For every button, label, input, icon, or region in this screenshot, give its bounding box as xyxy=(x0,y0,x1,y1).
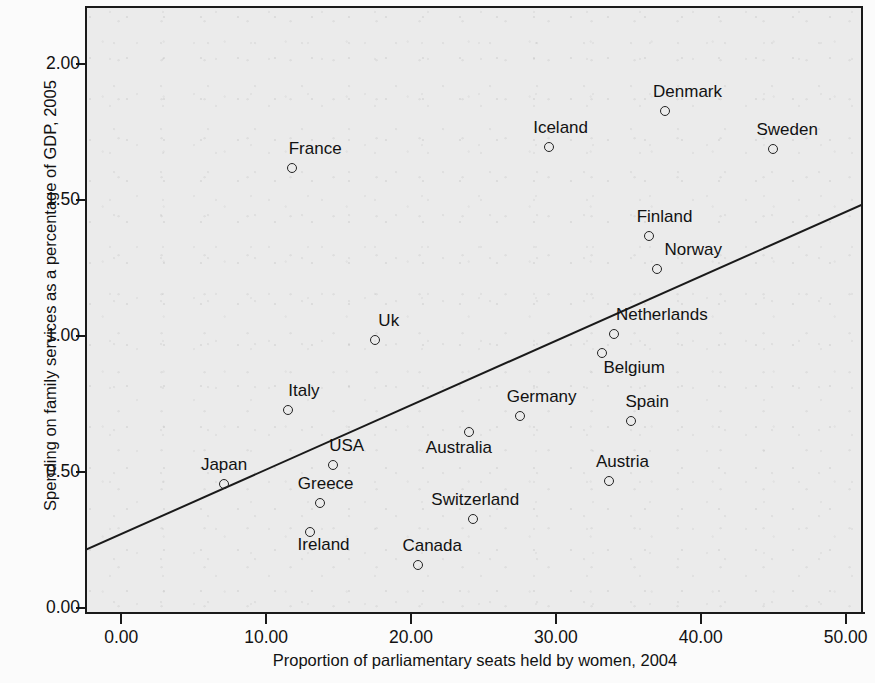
data-point[interactable] xyxy=(652,264,662,274)
data-point[interactable] xyxy=(315,498,325,508)
data-point[interactable] xyxy=(660,106,670,116)
x-tick-mark xyxy=(700,614,702,624)
x-tick-mark xyxy=(410,614,412,624)
data-point[interactable] xyxy=(283,405,293,415)
y-tick-label: 0.00 xyxy=(46,596,80,617)
data-point-label: Spain xyxy=(625,392,668,412)
data-point-label: Japan xyxy=(201,455,247,475)
data-point-label: Denmark xyxy=(653,82,722,102)
data-point-label: Greece xyxy=(298,474,354,494)
data-point[interactable] xyxy=(597,348,607,358)
data-point[interactable] xyxy=(413,560,423,570)
x-tick-label: 50.00 xyxy=(824,627,868,648)
data-point[interactable] xyxy=(768,144,778,154)
data-point[interactable] xyxy=(609,329,619,339)
data-point-label: Austria xyxy=(596,452,649,472)
data-point-label: Belgium xyxy=(603,358,664,378)
x-tick-label: 10.00 xyxy=(244,627,288,648)
data-point-label: Ireland xyxy=(298,535,350,555)
data-point-label: Switzerland xyxy=(431,490,519,510)
data-point-label: Uk xyxy=(378,311,399,331)
data-point[interactable] xyxy=(468,514,478,524)
data-point[interactable] xyxy=(626,416,636,426)
y-axis-title: Spending on family services as a percent… xyxy=(41,1,60,591)
data-point[interactable] xyxy=(219,479,229,489)
data-point-label: Italy xyxy=(288,381,319,401)
x-tick-label: 0.00 xyxy=(104,627,138,648)
data-point-label: Sweden xyxy=(756,120,817,140)
x-tick-label: 40.00 xyxy=(679,627,723,648)
data-point-label: Germany xyxy=(507,387,577,407)
x-axis-line xyxy=(85,612,865,614)
data-point-label: Canada xyxy=(402,536,462,556)
data-point[interactable] xyxy=(644,231,654,241)
data-point[interactable] xyxy=(370,335,380,345)
data-point[interactable] xyxy=(464,427,474,437)
x-tick-label: 30.00 xyxy=(534,627,578,648)
x-axis-title: Proportion of parliamentary seats held b… xyxy=(85,651,865,670)
data-point-label: USA xyxy=(329,436,364,456)
data-point[interactable] xyxy=(544,142,554,152)
x-tick-mark xyxy=(120,614,122,624)
data-point-label: Finland xyxy=(637,207,693,227)
y-axis-line xyxy=(85,6,87,614)
x-tick-label: 20.00 xyxy=(389,627,433,648)
data-point-label: France xyxy=(289,139,342,159)
data-point-label: Netherlands xyxy=(616,305,708,325)
data-point[interactable] xyxy=(515,411,525,421)
data-point[interactable] xyxy=(287,163,297,173)
x-tick-mark xyxy=(265,614,267,624)
plot-area: JapanItalyFranceIrelandGreeceUSAUkCanada… xyxy=(85,6,863,612)
data-points-layer: JapanItalyFranceIrelandGreeceUSAUkCanada… xyxy=(85,8,861,612)
data-point[interactable] xyxy=(328,460,338,470)
scatter-plot-figure: JapanItalyFranceIrelandGreeceUSAUkCanada… xyxy=(0,0,875,683)
data-point[interactable] xyxy=(604,476,614,486)
data-point-label: Australia xyxy=(426,438,492,458)
x-tick-mark xyxy=(555,614,557,624)
data-point-label: Iceland xyxy=(533,118,588,138)
data-point-label: Norway xyxy=(664,240,722,260)
x-tick-mark xyxy=(845,614,847,624)
